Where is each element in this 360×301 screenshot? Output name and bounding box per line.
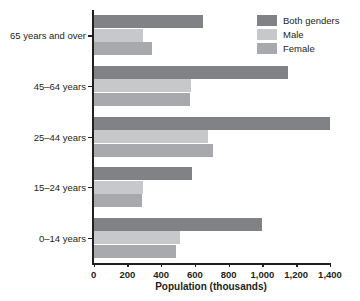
x-axis-tick-label: 0	[91, 269, 96, 280]
chart-legend: Both gendersMaleFemale	[257, 14, 340, 56]
bar	[94, 231, 180, 244]
x-axis-tick-label: 400	[153, 269, 169, 280]
legend-item-label: Both genders	[283, 16, 340, 26]
x-axis-tick	[161, 263, 162, 267]
x-axis-tick-label: 1,000	[251, 269, 275, 280]
x-axis-tick	[195, 263, 196, 267]
legend-item-label: Female	[283, 44, 315, 54]
y-axis-tick	[88, 137, 92, 138]
x-axis-tick-label: 800	[221, 269, 237, 280]
y-axis-tick	[88, 187, 92, 188]
bar	[94, 42, 152, 55]
legend-item: Female	[257, 42, 340, 55]
bar	[94, 79, 191, 92]
y-axis-tick-label: 65 years and over	[10, 30, 86, 41]
bar	[94, 194, 142, 207]
y-axis-tick	[88, 86, 92, 87]
y-axis-tick-label: 45–64 years	[34, 80, 86, 91]
bar	[94, 181, 144, 194]
bar	[94, 245, 177, 258]
x-axis-tick-label: 1,400	[318, 269, 342, 280]
y-axis-tick	[88, 238, 92, 239]
y-axis-tick-label: 15–24 years	[34, 182, 86, 193]
x-axis-tick-label: 600	[187, 269, 203, 280]
bar	[94, 117, 330, 130]
legend-item-label: Male	[283, 30, 304, 40]
y-axis-tick-label: 0–14 years	[39, 232, 86, 243]
y-axis-tick-label: 25–44 years	[34, 131, 86, 142]
x-axis-title: Population (thousands)	[92, 281, 330, 292]
legend-swatch-icon	[257, 29, 277, 40]
bar	[94, 144, 213, 157]
bar	[94, 130, 208, 143]
x-axis-tick	[127, 263, 128, 267]
x-axis-tick	[94, 263, 95, 267]
legend-swatch-icon	[257, 43, 277, 54]
x-axis-tick-label: 200	[119, 269, 135, 280]
population-bar-chart: 02004006008001,0001,2001,400 0–14 years1…	[0, 0, 360, 301]
x-axis-tick-label: 1,200	[284, 269, 308, 280]
bar	[94, 15, 204, 28]
bar	[94, 218, 263, 231]
x-axis-tick	[296, 263, 297, 267]
bar	[94, 167, 192, 180]
legend-swatch-icon	[257, 15, 277, 26]
y-axis-tick	[88, 35, 92, 36]
x-axis-tick	[262, 263, 263, 267]
bar	[94, 93, 190, 106]
x-axis-tick	[330, 263, 331, 267]
bar	[94, 66, 288, 79]
x-axis-tick	[229, 263, 230, 267]
bar	[94, 29, 144, 42]
legend-item: Male	[257, 28, 340, 41]
legend-item: Both genders	[257, 14, 340, 27]
